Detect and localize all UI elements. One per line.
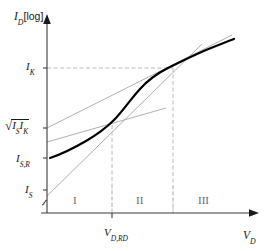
x-axis-label: VD: [243, 230, 256, 242]
y-axis-arrow: [43, 14, 51, 24]
y-tick-label-is-r: IS,R: [16, 153, 30, 164]
diode-characteristic-figure: ID[log] VD IK √ISIK IS,R IS VD,RD I II I…: [0, 0, 270, 251]
y-tick-isr-subscript: S,R: [20, 160, 30, 169]
y-tick-label-sqrt-is-ik: √ISIK: [5, 119, 29, 132]
asymptote-region-1-icon: [47, 35, 232, 128]
region-label-3: III: [198, 194, 209, 206]
y-axis-unit: [log]: [24, 10, 44, 22]
diode-curve: [50, 39, 234, 158]
plot-canvas: [0, 0, 270, 251]
x-tick-vdrd-subscript: D,RD: [111, 234, 128, 243]
y-tick-label-ik: IK: [26, 61, 35, 72]
radicand-subscript-2: K: [23, 127, 28, 136]
axis-break-symbol: [42, 200, 47, 205]
x-axis-symbol: V: [243, 229, 250, 241]
x-tick-vdrd-symbol: V: [104, 226, 111, 238]
guide-lines: [47, 68, 173, 213]
asymptote-lines: [47, 35, 232, 196]
y-axis-subscript: D: [18, 18, 24, 27]
x-axis-arrow: [249, 209, 259, 217]
y-axis-ticks: [43, 68, 47, 190]
radicand-subscript-1: S: [16, 127, 20, 136]
axes: [41, 22, 251, 213]
y-tick-label-is: IS: [25, 184, 32, 195]
asymptote-region-3-icon: [47, 108, 166, 142]
y-tick-is-subscript: S: [29, 191, 33, 200]
region-label-2: II: [136, 194, 143, 206]
radicand-group: ISIK: [11, 119, 29, 132]
region-label-1: I: [73, 194, 77, 206]
y-tick-ik-subscript: K: [30, 68, 35, 77]
x-axis-subscript: D: [250, 237, 256, 246]
x-tick-label-vd-rd: VD,RD: [104, 227, 128, 238]
y-axis-label: ID[log]: [14, 11, 43, 23]
